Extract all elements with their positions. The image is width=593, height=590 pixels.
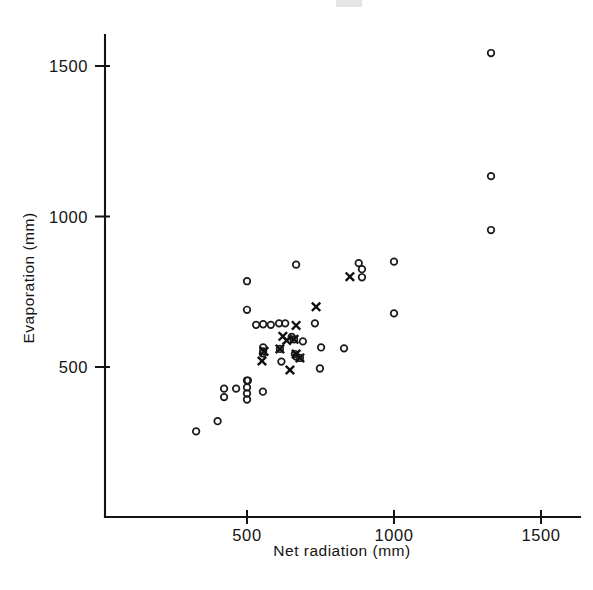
data-point-cross (312, 303, 320, 311)
data-point-circle (300, 338, 307, 345)
x-axis-title: Net radiation (mm) (273, 542, 410, 559)
data-point-circle (312, 320, 319, 327)
data-point-circle (391, 310, 398, 317)
data-point-cross (286, 366, 294, 374)
data-point-circle (244, 307, 251, 314)
data-point-circle (293, 261, 300, 268)
x-tick-group: 50010001500 (232, 510, 560, 544)
data-point-circle (488, 173, 495, 180)
data-point-circle (391, 258, 398, 265)
y-tick-label: 500 (59, 358, 88, 376)
data-point-circle (221, 385, 228, 392)
data-point-circle (278, 358, 285, 365)
page-edge-artifact (336, 0, 362, 7)
x-tick-label: 1500 (521, 526, 560, 544)
scatter-plot-figure: 50010001500 50010001500 Net radiation (m… (0, 0, 593, 590)
data-point-circle (244, 278, 251, 285)
data-point-cross (282, 336, 290, 344)
data-point-circle (260, 388, 267, 395)
data-point-circle (268, 322, 275, 329)
data-point-circle (359, 266, 366, 273)
data-point-circle (318, 344, 325, 351)
data-point-circle (359, 274, 366, 281)
data-point-circle (253, 322, 260, 329)
data-point-cross (292, 321, 300, 329)
y-tick-label: 1500 (49, 57, 88, 75)
data-point-circle (233, 385, 240, 392)
data-point-cross (258, 357, 266, 365)
data-point-cross (346, 273, 354, 281)
y-axis-title: Evaporation (mm) (20, 212, 37, 343)
data-marker-group (193, 50, 494, 435)
data-point-circle (341, 345, 348, 352)
data-point-circle (221, 394, 228, 401)
axis-lines (105, 35, 580, 517)
data-point-circle (488, 50, 495, 57)
data-point-circle (488, 227, 495, 234)
data-point-circle (317, 365, 324, 372)
y-tick-label: 1000 (49, 208, 88, 226)
y-tick-group: 50010001500 (49, 57, 110, 376)
x-tick-label: 500 (232, 526, 261, 544)
scatter-plot-canvas: 50010001500 50010001500 Net radiation (m… (0, 0, 593, 590)
data-point-circle (193, 428, 200, 435)
data-point-circle (214, 418, 221, 425)
data-point-circle (260, 321, 267, 328)
